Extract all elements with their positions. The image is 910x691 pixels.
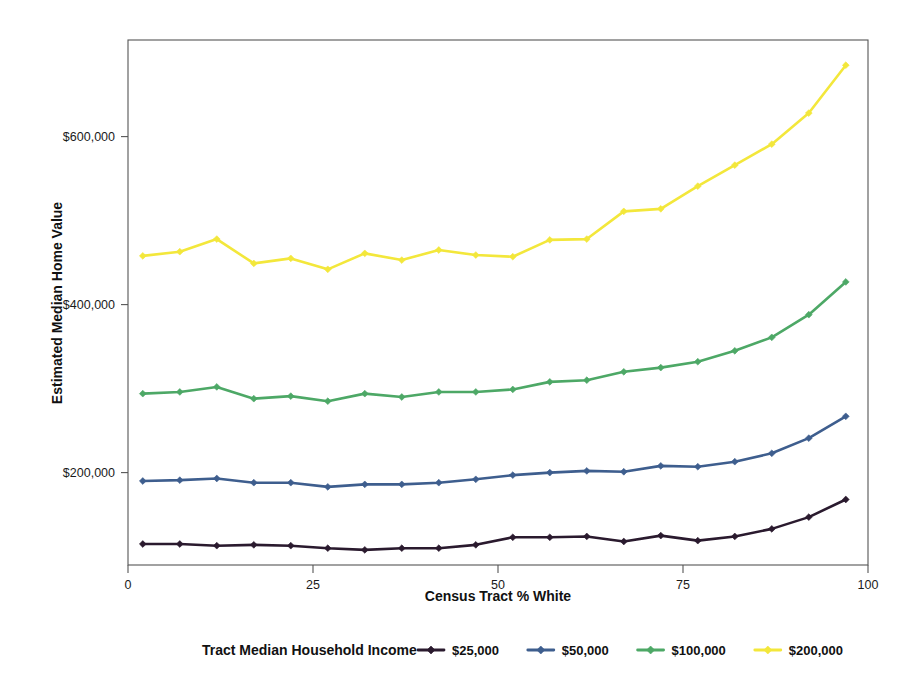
x-tick-label: 0 bbox=[125, 578, 132, 592]
y-tick-label: $200,000 bbox=[63, 466, 115, 480]
legend-title: Tract Median Household Income bbox=[202, 642, 417, 658]
line-chart-canvas: $200,000$400,000$600,000 0255075100 Cens… bbox=[0, 0, 910, 691]
x-axis-title: Census Tract % White bbox=[425, 588, 571, 604]
legend-label: $25,000 bbox=[452, 643, 499, 658]
legend-label: $200,000 bbox=[789, 643, 843, 658]
chart-figure: $200,000$400,000$600,000 0255075100 Cens… bbox=[0, 0, 910, 691]
x-tick-label: 75 bbox=[676, 578, 690, 592]
y-axis-title: Estimated Median Home Value bbox=[49, 202, 65, 404]
legend-label: $100,000 bbox=[672, 643, 726, 658]
x-tick-label: 25 bbox=[306, 578, 320, 592]
legend-label: $50,000 bbox=[562, 643, 609, 658]
y-tick-label: $600,000 bbox=[63, 130, 115, 144]
x-tick-label: 100 bbox=[858, 578, 879, 592]
y-tick-label: $400,000 bbox=[63, 298, 115, 312]
